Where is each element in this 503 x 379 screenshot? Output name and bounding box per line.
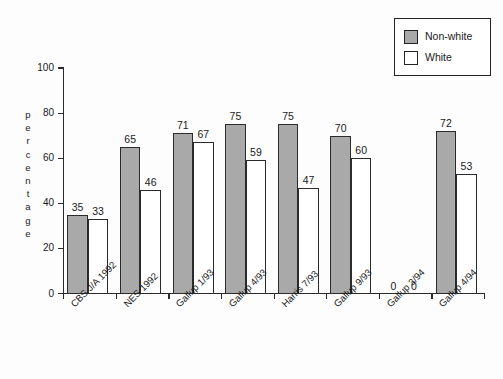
x-axis-tick bbox=[484, 293, 485, 299]
bar-value-label: 72 bbox=[430, 118, 463, 129]
bars-layer bbox=[63, 68, 484, 294]
x-axis-tick bbox=[274, 293, 275, 299]
x-axis-tick bbox=[168, 293, 169, 299]
x-axis-tick bbox=[221, 293, 222, 299]
x-axis-tick bbox=[63, 293, 64, 299]
legend-label-non-white: Non-white bbox=[425, 31, 472, 42]
bar-value-label: 67 bbox=[187, 129, 220, 140]
y-axis-tick-label: 20 bbox=[24, 243, 54, 253]
y-axis-ticks: 100806040200 bbox=[0, 0, 63, 379]
y-axis-tick-label: 0 bbox=[24, 289, 54, 299]
bar-value-label: 75 bbox=[272, 111, 305, 122]
bar-value-label: 47 bbox=[292, 175, 325, 186]
legend-label-white: White bbox=[425, 52, 452, 63]
bar-non-white bbox=[278, 124, 299, 293]
y-axis-tick-label: 80 bbox=[24, 108, 54, 118]
y-axis-tick-label: 100 bbox=[24, 63, 54, 73]
legend-item-white: White bbox=[404, 47, 490, 68]
bar-non-white bbox=[173, 133, 194, 293]
legend-swatch-white bbox=[404, 51, 418, 65]
x-axis-tick bbox=[431, 293, 432, 299]
bar-value-label: 53 bbox=[450, 161, 483, 172]
y-axis-tick-label: 40 bbox=[24, 198, 54, 208]
bar-non-white bbox=[120, 147, 141, 294]
bar-value-label: 60 bbox=[345, 145, 378, 156]
x-axis-tick bbox=[326, 293, 327, 299]
bar-non-white bbox=[67, 215, 88, 294]
bar-value-label: 65 bbox=[114, 134, 147, 145]
legend-item-non-white: Non-white bbox=[404, 26, 490, 47]
bar-non-white bbox=[330, 136, 351, 294]
bar-value-label: 59 bbox=[240, 147, 273, 158]
x-axis-tick bbox=[379, 293, 380, 299]
bar-chart: Non-white White percentage 100806040200 … bbox=[0, 0, 503, 379]
x-axis-tick bbox=[116, 293, 117, 299]
bar-value-label: 70 bbox=[324, 123, 357, 134]
bar-value-label: 33 bbox=[82, 206, 115, 217]
legend-swatch-non-white bbox=[404, 30, 418, 44]
bar-value-label: 75 bbox=[219, 111, 252, 122]
y-axis-tick-label: 60 bbox=[24, 153, 54, 163]
bar-value-label: 46 bbox=[134, 177, 167, 188]
bar-non-white bbox=[436, 131, 457, 293]
